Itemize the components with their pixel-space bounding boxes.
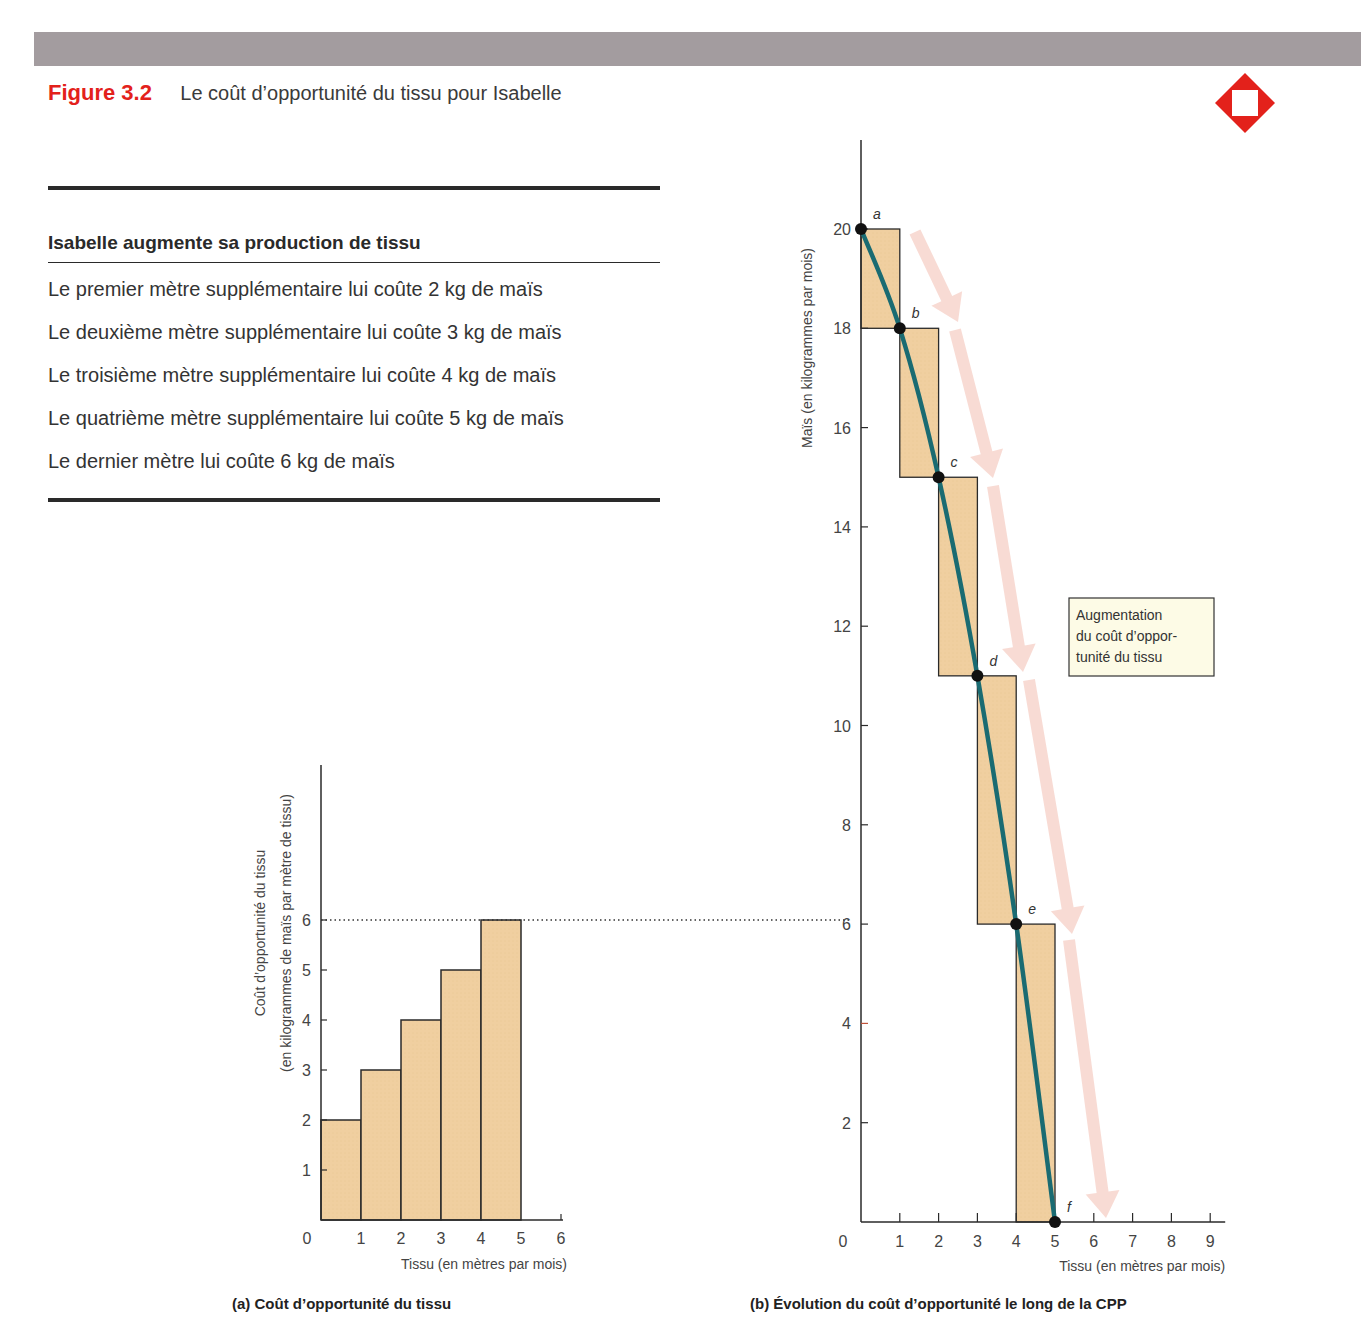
x-tick-label: 0: [839, 1233, 848, 1250]
y-tick-label: 18: [833, 320, 851, 337]
point-label: b: [912, 305, 920, 321]
y-axis-label: Coût d’opportunité du tissu: [252, 850, 268, 1017]
y-tick-label: 1: [302, 1162, 311, 1179]
increase-arrow-icon: [987, 485, 1036, 672]
x-tick-label: 4: [1012, 1233, 1021, 1250]
bar: [361, 1070, 401, 1220]
increase-arrow-icon: [1063, 939, 1119, 1218]
point-label: e: [1028, 901, 1036, 917]
x-tick-label: 0: [303, 1230, 312, 1247]
x-tick-label: 8: [1167, 1233, 1176, 1250]
x-tick-label: 9: [1206, 1233, 1215, 1250]
x-tick-label: 1: [895, 1233, 904, 1250]
annotation-text: du coût d’oppor-: [1076, 628, 1178, 644]
x-tick-label: 1: [357, 1230, 366, 1247]
point-label: d: [989, 653, 998, 669]
y-tick-label: 6: [302, 912, 311, 929]
y-tick-label: 8: [842, 817, 851, 834]
point-label: f: [1067, 1199, 1073, 1215]
increase-arrow-icon: [1023, 679, 1084, 934]
bar: [441, 970, 481, 1220]
y-tick-label: 20: [833, 221, 851, 238]
y-tick-label: 6: [842, 916, 851, 933]
y-tick-label: 2: [302, 1112, 311, 1129]
y-tick-label: 4: [302, 1012, 311, 1029]
x-tick-label: 6: [1089, 1233, 1098, 1250]
y-tick-label: 12: [833, 618, 851, 635]
x-axis-label: Tissu (en mètres par mois): [1059, 1258, 1225, 1274]
x-tick-label: 6: [557, 1230, 566, 1247]
chart-b-caption: (b) Évolution du coût d’opportunité le l…: [750, 1295, 1127, 1312]
annotation-text: Augmentation: [1076, 607, 1162, 623]
y-tick-label: 3: [302, 1062, 311, 1079]
x-tick-label: 2: [397, 1230, 406, 1247]
point-c: [933, 471, 945, 483]
y-tick-label: 14: [833, 519, 851, 536]
y-tick-label: 4: [842, 1015, 851, 1032]
y-tick-label: 2: [842, 1115, 851, 1132]
charts: 1234560123456Tissu (en mètres par mois)C…: [0, 0, 1361, 1340]
y-tick-label: 16: [833, 420, 851, 437]
chart-b-ppf-curve: 24681012141618200123456789abcdefTissu (e…: [799, 140, 1225, 1274]
x-tick-label: 5: [1051, 1233, 1060, 1250]
y-axis-label: Maïs (en kilogrammes par mois): [799, 248, 815, 448]
bar: [401, 1020, 441, 1220]
x-axis-label: Tissu (en mètres par mois): [401, 1256, 567, 1272]
x-tick-label: 2: [934, 1233, 943, 1250]
x-tick-label: 4: [477, 1230, 486, 1247]
point-a: [855, 223, 867, 235]
point-e: [1010, 918, 1022, 930]
x-tick-label: 5: [517, 1230, 526, 1247]
x-tick-label: 3: [973, 1233, 982, 1250]
annotation-text: tunité du tissu: [1076, 649, 1162, 665]
x-tick-label: 3: [437, 1230, 446, 1247]
point-d: [971, 670, 983, 682]
bar: [481, 920, 521, 1220]
y-tick-label: 10: [833, 718, 851, 735]
chart-a-opportunity-cost-bars: 1234560123456Tissu (en mètres par mois)C…: [252, 765, 852, 1272]
point-f: [1049, 1216, 1061, 1228]
point-label: c: [951, 454, 958, 470]
y-axis-label-units: (en kilogrammes de maïs par mètre de tis…: [278, 794, 294, 1072]
point-b: [894, 322, 906, 334]
y-tick-label: 5: [302, 962, 311, 979]
x-tick-label: 7: [1128, 1233, 1137, 1250]
point-label: a: [873, 206, 881, 222]
chart-a-caption: (a) Coût d’opportunité du tissu: [232, 1295, 451, 1312]
